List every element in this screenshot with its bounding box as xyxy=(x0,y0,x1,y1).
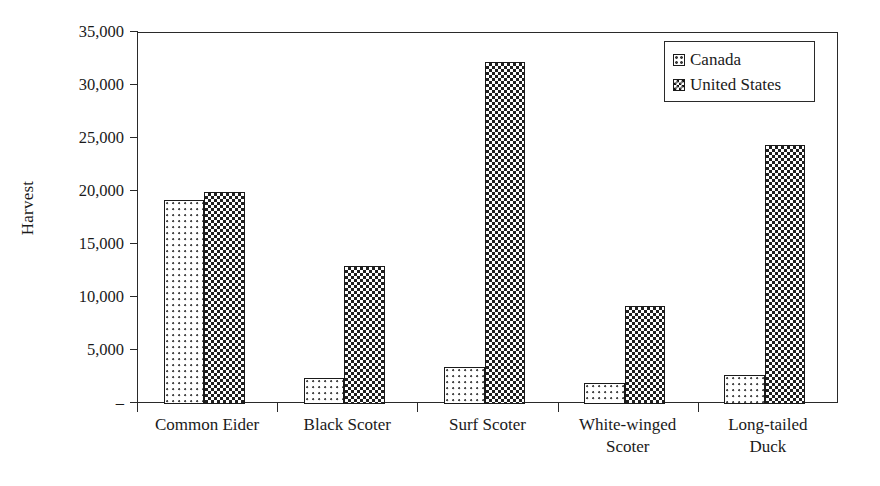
x-axis-tick xyxy=(417,403,418,412)
y-axis-tick-label-wrap: 5,000 xyxy=(36,342,124,358)
canada-swatch-icon xyxy=(673,54,685,66)
legend-item-united-states: United States xyxy=(673,72,814,97)
x-axis-category-label: Surf Scoter xyxy=(411,414,563,436)
y-axis-tick-label-wrap: 30,000 xyxy=(36,77,124,93)
x-axis-tick xyxy=(277,403,278,412)
legend-label-united-states: United States xyxy=(690,76,781,94)
x-axis-origin-tick xyxy=(137,403,138,412)
y-axis-tick-label: 20,000 xyxy=(38,183,124,199)
y-axis-tick-label-wrap: – xyxy=(36,395,124,411)
y-axis-tick-label-wrap: 35,000 xyxy=(36,24,124,40)
x-axis-tick xyxy=(558,403,559,412)
y-axis-tick-label-wrap: 15,000 xyxy=(36,236,124,252)
bar-united-states-white-winged-scoter xyxy=(625,306,666,404)
y-axis-tick-label-wrap: 10,000 xyxy=(36,289,124,305)
legend-label-canada: Canada xyxy=(690,51,741,69)
bar-united-states-black-scoter xyxy=(344,266,385,404)
bar-united-states-common-eider xyxy=(204,192,245,404)
x-axis-tick xyxy=(698,403,699,412)
x-axis-category-label: Black Scoter xyxy=(271,414,423,436)
united-states-swatch-icon xyxy=(673,79,685,91)
y-axis-tick-label: 35,000 xyxy=(38,24,124,40)
bar-chart-figure: Harvest –5,00010,00015,00020,00025,00030… xyxy=(0,0,880,486)
bar-canada-white-winged-scoter xyxy=(584,383,625,404)
y-axis-tick-label-wrap: 20,000 xyxy=(36,183,124,199)
y-axis-tick-label: – xyxy=(38,395,124,411)
y-axis-tick-label: 15,000 xyxy=(38,236,124,252)
legend-item-canada: Canada xyxy=(673,47,814,72)
x-axis-category-label: White-winged Scoter xyxy=(552,414,704,458)
bar-canada-black-scoter xyxy=(304,378,345,405)
y-axis-tick-label-wrap: 25,000 xyxy=(36,130,124,146)
chart-legend: Canada United States xyxy=(664,41,815,102)
bar-united-states-surf-scoter xyxy=(485,62,526,404)
y-axis-tick-label: 10,000 xyxy=(38,289,124,305)
y-axis-tick-label: 25,000 xyxy=(38,130,124,146)
bar-canada-long-tailed-duck xyxy=(724,375,765,404)
x-axis-category-label: Common Eider xyxy=(131,414,283,436)
y-axis-tick-label: 5,000 xyxy=(38,342,124,358)
bar-canada-surf-scoter xyxy=(444,367,485,404)
bar-canada-common-eider xyxy=(164,200,205,404)
bar-united-states-long-tailed-duck xyxy=(765,145,806,404)
y-axis-tick-label: 30,000 xyxy=(38,77,124,93)
x-axis-category-label: Long-tailed Duck xyxy=(692,414,844,458)
